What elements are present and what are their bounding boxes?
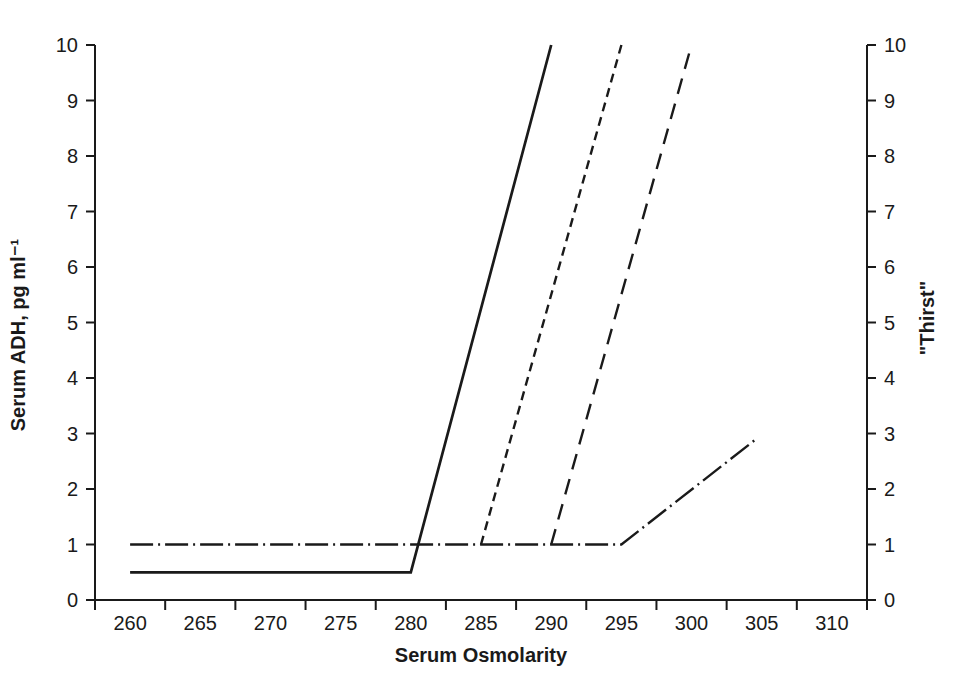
y-axis-title-left: Serum ADH, pg ml⁻¹ — [7, 238, 29, 431]
x-tick-label: 265 — [184, 612, 217, 634]
x-tick-label: 260 — [113, 612, 146, 634]
y-tick-label-left: 6 — [67, 256, 78, 278]
y-tick-label-left: 10 — [56, 34, 78, 56]
y-tick-label-right: 1 — [884, 534, 895, 556]
x-tick-label: 275 — [324, 612, 357, 634]
y-tick-label-right: 4 — [884, 367, 895, 389]
x-tick-label: 290 — [534, 612, 567, 634]
x-tick-label: 270 — [254, 612, 287, 634]
y-tick-label-right: 10 — [884, 34, 906, 56]
x-axis-title: Serum Osmolarity — [395, 644, 568, 666]
y-tick-label-left: 7 — [67, 201, 78, 223]
x-tick-label: 310 — [815, 612, 848, 634]
y-tick-label-left: 0 — [67, 589, 78, 611]
y-tick-label-left: 9 — [67, 90, 78, 112]
series-adh-curve-long-dash — [551, 45, 691, 545]
y-tick-label-left: 1 — [67, 534, 78, 556]
y-tick-label-left: 3 — [67, 423, 78, 445]
osmolarity-adh-thirst-chart: Serum Osmolarity Serum ADH, pg ml⁻¹ "Thi… — [0, 0, 963, 700]
x-tick-label: 280 — [394, 612, 427, 634]
chart-canvas: Serum Osmolarity Serum ADH, pg ml⁻¹ "Thi… — [0, 0, 963, 700]
y-tick-label-right: 2 — [884, 478, 895, 500]
y-tick-label-right: 8 — [884, 145, 895, 167]
x-tick-label: 300 — [675, 612, 708, 634]
y-tick-label-left: 2 — [67, 478, 78, 500]
series-layer — [130, 45, 756, 572]
y-tick-label-right: 9 — [884, 90, 895, 112]
y-tick-label-left: 8 — [67, 145, 78, 167]
y-tick-label-right: 7 — [884, 201, 895, 223]
y-tick-label-right: 6 — [884, 256, 895, 278]
y-axis-title-right: "Thirst" — [916, 281, 938, 356]
x-tick-label: 285 — [464, 612, 497, 634]
y-tick-label-right: 0 — [884, 589, 895, 611]
y-tick-label-left: 4 — [67, 367, 78, 389]
y-tick-label-right: 5 — [884, 312, 895, 334]
x-tick-label: 305 — [745, 612, 778, 634]
x-tick-label: 295 — [605, 612, 638, 634]
series-adh-curve-solid — [130, 45, 551, 572]
y-tick-label-right: 3 — [884, 423, 895, 445]
series-adh-curve-short-dash — [481, 45, 621, 545]
y-tick-label-left: 5 — [67, 312, 78, 334]
